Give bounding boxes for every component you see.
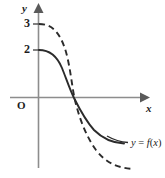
x-axis-arrowhead [140, 93, 150, 103]
curve-label-equals: = [136, 137, 147, 148]
curve-equation-label: y = f(x) [131, 138, 161, 149]
x-axis-label: x [146, 103, 152, 114]
y-tick-label-3: 3 [24, 17, 30, 29]
figure-container: y x 3 2 O y = f(x) [0, 0, 165, 178]
dashed-curve-path [39, 24, 133, 169]
y-axis-label: y [22, 3, 27, 14]
y-axis-arrowhead [34, 3, 44, 13]
curve-label-close-paren: ) [158, 137, 162, 148]
y-tick-label-2: 2 [24, 43, 30, 55]
origin-label: O [17, 100, 26, 111]
